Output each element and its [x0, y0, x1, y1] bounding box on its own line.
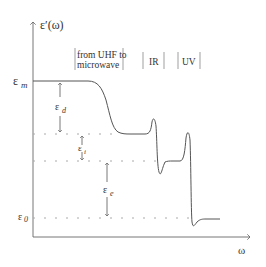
svg-text:0: 0 — [24, 215, 28, 224]
svg-text:microwave: microwave — [77, 60, 119, 70]
ee-arrow: ε e — [103, 163, 114, 216]
svg-text:UV: UV — [182, 57, 196, 67]
region-microwave: from UHF to microwave — [75, 48, 127, 70]
region-ir: IR — [143, 52, 164, 69]
svg-text:from UHF to: from UHF to — [77, 50, 127, 60]
region-uv: UV — [178, 52, 200, 69]
permittivity-curve — [33, 81, 220, 226]
svg-text:i: i — [84, 148, 86, 156]
e0-label: ε 0 — [18, 211, 28, 224]
svg-text:ε: ε — [18, 211, 22, 222]
ei-arrow: ε i — [78, 136, 86, 160]
ed-arrow: ε d — [55, 83, 67, 132]
y-axis-label: ε′(ω) — [40, 18, 64, 32]
svg-text:e: e — [110, 189, 114, 198]
svg-text:ε: ε — [78, 143, 82, 153]
em-label: ε m — [13, 74, 28, 90]
svg-text:ε: ε — [13, 74, 18, 88]
svg-text:ε: ε — [103, 184, 107, 195]
svg-text:m: m — [21, 80, 28, 90]
svg-text:ε: ε — [55, 101, 59, 112]
x-axis-label: ω — [238, 244, 245, 256]
svg-text:IR: IR — [149, 57, 159, 67]
svg-text:d: d — [62, 106, 67, 115]
permittivity-dispersion-diagram: ε′(ω) ω ε m ε 0 ε d ε i ε e from UHF t — [0, 0, 266, 267]
